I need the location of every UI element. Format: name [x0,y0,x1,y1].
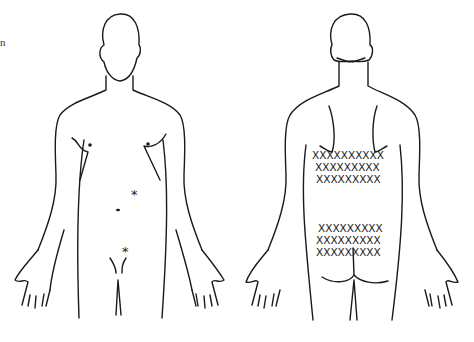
front-nipple-right [146,142,150,146]
front-head [100,14,140,81]
x-row: XXXXXXXXX [316,173,381,185]
body-diagram: * * XXXXXXXXXX XXXXXXXXX XXXXXXXXX XXXXX… [0,0,474,342]
front-side-right [162,140,167,318]
front-arm-inner-left [50,230,64,290]
back-buttocks [322,275,388,283]
front-nipple-left [88,143,92,147]
x-row: XXXXXXXXX [315,161,380,173]
front-side-left [78,140,84,318]
front-torso-right [133,76,202,250]
front-marker-asterisk-lower: * [122,244,129,259]
x-row: XXXXXXXXX [316,246,381,258]
back-lower-x-block: XXXXXXXXX XXXXXXXXX XXXXXXXXX [316,222,383,258]
back-side-right [392,145,402,320]
front-marker-dot [116,209,120,212]
front-arm-inner-right [176,230,192,290]
back-upper-x-block: XXXXXXXXXX XXXXXXXXX XXXXXXXXX [312,149,384,185]
front-marker-asterisk-upper: * [131,187,138,202]
x-row: XXXXXXXXX [318,222,383,234]
x-row: XXXXXXXXX [316,234,381,246]
front-figure: * * [15,14,224,318]
back-hand-right [425,250,458,308]
back-scapula-left [320,106,334,152]
front-hand-left [15,250,50,308]
back-head [331,14,373,62]
back-side-left [303,145,313,320]
back-legs-gap [350,280,357,320]
front-hand-right [192,250,224,308]
back-scapula-right [373,106,387,152]
x-row: XXXXXXXXXX [312,149,384,161]
front-groin [110,258,126,315]
front-torso-left [38,76,106,250]
back-hand-left [246,250,280,308]
back-figure: XXXXXXXXXX XXXXXXXXX XXXXXXXXX XXXXXXXXX… [246,14,458,320]
